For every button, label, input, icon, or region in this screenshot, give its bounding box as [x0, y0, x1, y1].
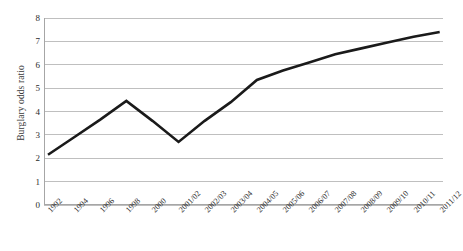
- y-axis-tick-label: 0: [6, 200, 40, 210]
- y-axis-tick-label: 1: [6, 177, 40, 187]
- x-axis-tick-labels: 199219941996199820002001/022002/032003/0…: [44, 206, 457, 251]
- y-axis-tick-label: 8: [6, 13, 40, 23]
- y-axis-tick-label: 7: [6, 36, 40, 46]
- y-axis-tick-label: 5: [6, 83, 40, 93]
- y-axis-tick-label: 6: [6, 60, 40, 70]
- y-axis-tick-label: 3: [6, 130, 40, 140]
- y-axis-tick-label: 4: [6, 107, 40, 117]
- plot-area: [44, 18, 443, 205]
- y-axis-tick-labels: 012345678: [0, 18, 40, 205]
- y-axis-tick-label: 2: [6, 153, 40, 163]
- data-series-line: [44, 18, 443, 205]
